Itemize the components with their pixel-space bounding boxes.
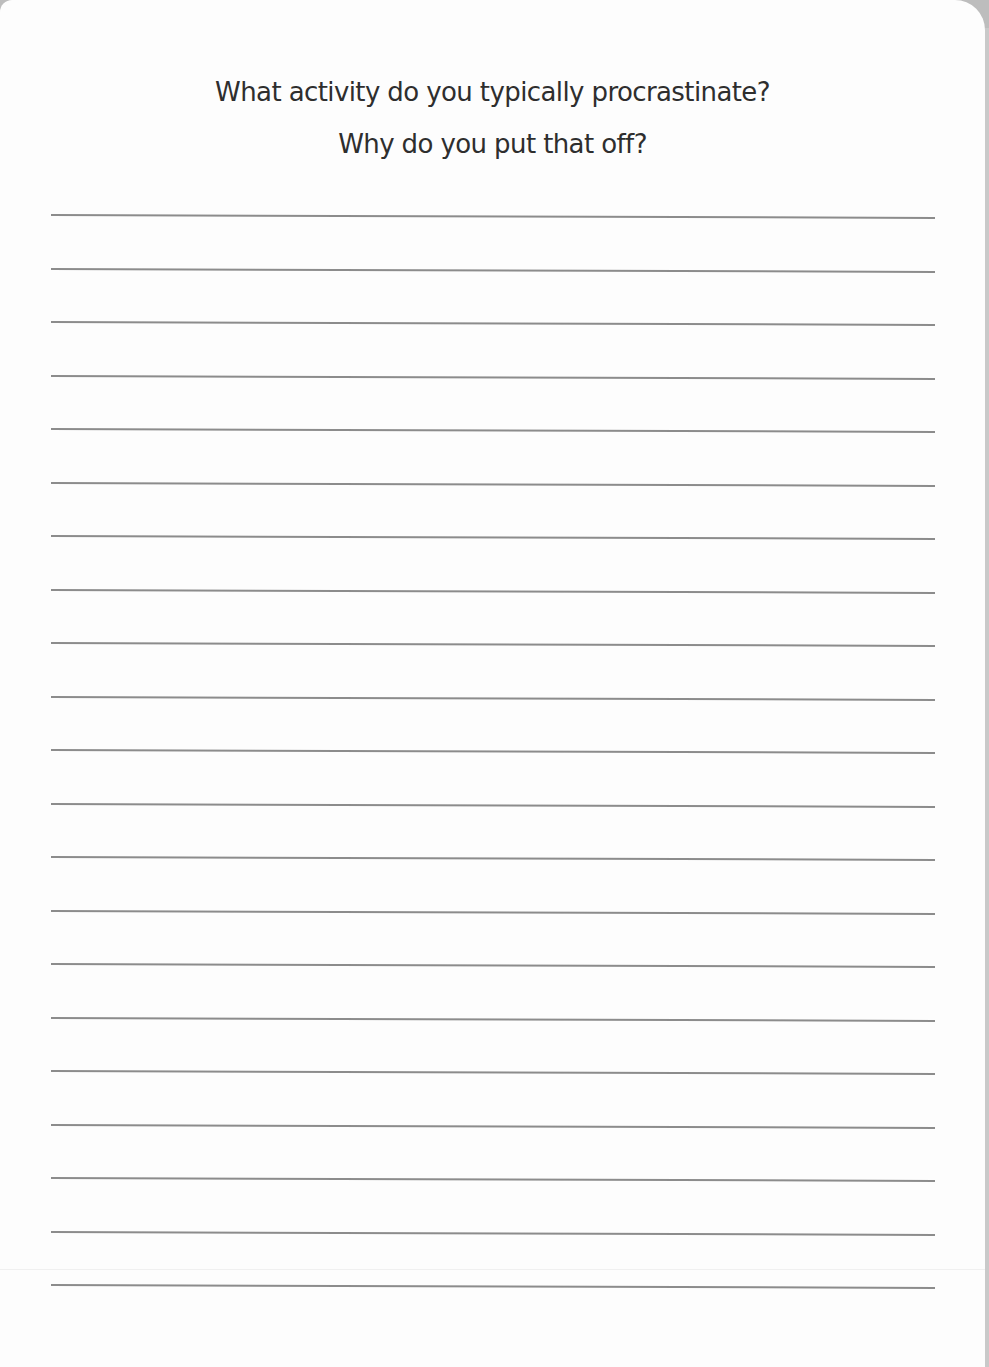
writing-line[interactable] bbox=[51, 1017, 935, 1021]
page-edge bbox=[985, 28, 989, 1367]
writing-lines[interactable] bbox=[51, 0, 935, 1367]
writing-line[interactable] bbox=[51, 535, 935, 539]
writing-line[interactable] bbox=[51, 482, 935, 486]
writing-line[interactable] bbox=[51, 589, 935, 593]
writing-line[interactable] bbox=[51, 1284, 935, 1288]
writing-line[interactable] bbox=[51, 749, 935, 753]
writing-line[interactable] bbox=[51, 214, 935, 218]
writing-line[interactable] bbox=[51, 803, 935, 807]
writing-line[interactable] bbox=[51, 1231, 935, 1235]
writing-line[interactable] bbox=[51, 696, 935, 700]
writing-line[interactable] bbox=[51, 1124, 935, 1128]
writing-line[interactable] bbox=[51, 268, 935, 272]
scan-seam bbox=[0, 1269, 985, 1270]
writing-line[interactable] bbox=[51, 642, 935, 646]
writing-line[interactable] bbox=[51, 428, 935, 432]
writing-line[interactable] bbox=[51, 963, 935, 967]
writing-line[interactable] bbox=[51, 910, 935, 914]
writing-line[interactable] bbox=[51, 1177, 935, 1181]
journal-page: What activity do you typically procrasti… bbox=[0, 0, 985, 1367]
writing-line[interactable] bbox=[51, 321, 935, 325]
writing-line[interactable] bbox=[51, 856, 935, 860]
writing-line[interactable] bbox=[51, 375, 935, 379]
writing-line[interactable] bbox=[51, 1070, 935, 1074]
